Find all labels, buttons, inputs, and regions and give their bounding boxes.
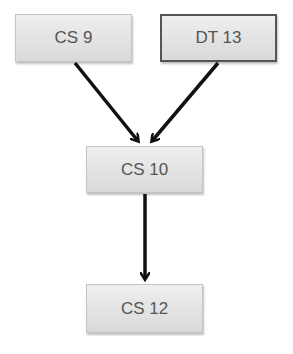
- node-dt13: DT 13: [160, 14, 277, 62]
- node-label: CS 10: [121, 160, 168, 180]
- node-label: DT 13: [196, 28, 242, 48]
- node-cs10: CS 10: [86, 146, 203, 193]
- node-cs9: CS 9: [15, 14, 132, 62]
- node-cs12: CS 12: [86, 284, 203, 333]
- edge-cs9-to-cs10: [75, 63, 138, 141]
- node-label: CS 9: [55, 28, 93, 48]
- edge-dt13-to-cs10: [152, 63, 218, 141]
- node-label: CS 12: [121, 299, 168, 319]
